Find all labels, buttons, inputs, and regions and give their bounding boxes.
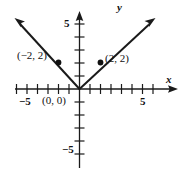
- y-tick-label-5: 5: [64, 18, 70, 29]
- y-tick-label-neg5: −5: [62, 144, 74, 155]
- point-label-left: (−2, 2): [17, 50, 47, 61]
- graph-left-arrow-icon: [15, 18, 26, 27]
- graph-right-arrow-icon: [145, 18, 156, 27]
- point-marker-left: [56, 60, 62, 66]
- x-axis-label: x: [166, 74, 172, 85]
- point-label-right: (2, 2): [105, 53, 129, 64]
- point-marker-right: [98, 60, 104, 66]
- y-axis-label: y: [117, 2, 122, 13]
- x-tick-label-5: 5: [140, 96, 146, 107]
- x-tick-label-neg5: −5: [19, 96, 31, 107]
- graph-figure: y x 5 −5 −5 5 (−2, 2) (0, 0) (2, 2): [0, 0, 182, 172]
- coordinate-plane-svg: [0, 0, 182, 172]
- point-label-origin: (0, 0): [42, 95, 66, 106]
